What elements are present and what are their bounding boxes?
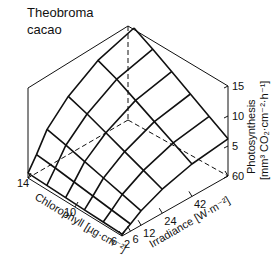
mesh-line-chlorophyll: [47, 49, 153, 185]
z-axis-ticks: [224, 86, 228, 178]
surface-plot: 6051015 61014 26122442 Chlorophyll [µg·c…: [0, 0, 278, 261]
z-tick-label: 5: [232, 140, 238, 152]
mesh-line-irradiance: [134, 28, 228, 139]
photosynthesis-axis-label-line-1: Photosynthesis: [245, 99, 257, 174]
mesh-line-irradiance: [98, 60, 192, 164]
mesh-line-chlorophyll: [28, 28, 134, 173]
irradiance-axis-label: Irradiance [W·m⁻²]: [147, 194, 232, 250]
mesh-line-chlorophyll: [84, 94, 190, 210]
photosynthesis-axis-label-line-2: [mm³ CO₂·cm⁻²·h⁻¹]: [258, 81, 270, 180]
z-axis-tick-labels: 6051015: [232, 80, 244, 182]
chlorophyll-tick-label: 14: [17, 177, 29, 189]
mesh-line-irradiance: [68, 96, 162, 189]
irradiance-tick-label: 6: [132, 233, 138, 245]
z-tick-label: 60: [232, 170, 244, 182]
z-tick-label: 15: [232, 80, 244, 92]
z-tick-label: 10: [232, 110, 244, 122]
chlorophyll-axis-label: Chlorophyll [µg·cm⁻²]: [33, 190, 129, 254]
mesh-line-chlorophyll: [66, 72, 172, 198]
